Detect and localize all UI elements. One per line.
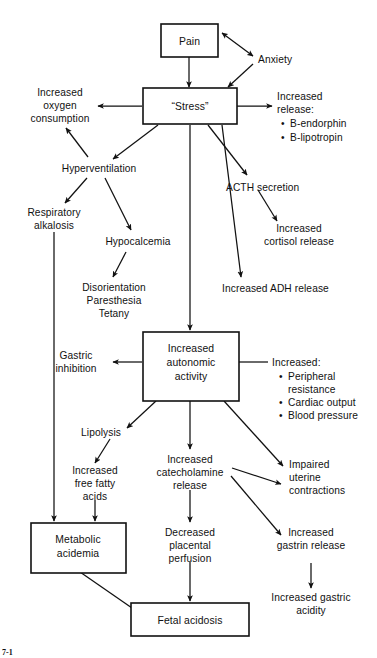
node-label-tetany: Tetany: [99, 308, 130, 319]
node-label-peripheral: Peripheral: [288, 371, 335, 382]
node-label-impaired-uterine-line3: contractions: [289, 485, 345, 496]
node-label-increased-oxygen-line2: oxygen: [43, 100, 76, 111]
node-label-pain: Pain: [179, 36, 200, 47]
node-label-impaired-uterine-line2: uterine: [289, 472, 321, 483]
node-label-increased-oxygen-line3: consumption: [31, 113, 90, 124]
node-label-blood-pressure: Blood pressure: [288, 410, 358, 421]
node-label-respiratory-alkalosis-line2: alkalosis: [34, 220, 74, 231]
node-label-b-lipotropin: B-lipotropin: [290, 132, 343, 143]
bullet-dot-b-lipotropin: •: [281, 132, 285, 143]
node-label-placental-line1: Decreased: [165, 527, 215, 538]
node-label-catecholamine-line2: catecholamine: [157, 467, 224, 478]
node-label-increased-release-title: Increased: [277, 91, 323, 102]
node-label-b-endorphin: B-endorphin: [290, 118, 347, 129]
node-label-ffa-line1: Increased: [72, 465, 118, 476]
node-label-metabolic-line2: acidemia: [57, 548, 100, 559]
bullet-dot-peripheral-resistance: •: [279, 371, 283, 382]
node-label-metabolic-line1: Metabolic: [55, 534, 100, 545]
node-label-gastrin-line2: gastrin release: [277, 540, 346, 551]
bullet-dot-blood-pressure: •: [279, 410, 283, 421]
figure-caption: 7-1: [2, 648, 13, 657]
node-label-respiratory-alkalosis-line1: Respiratory: [27, 207, 81, 218]
node-label-increased-cardio-title: Increased:: [272, 357, 321, 368]
edge-hypocalcemia-to-disorientation: [113, 252, 126, 277]
edge-autonomic-to-lipolysis: [127, 401, 156, 428]
edge-lipolysis-to-ffa: [95, 439, 110, 463]
edge-anxiety-to-stress: [228, 64, 253, 87]
node-label-gastric-inhibition-line2: inhibition: [55, 363, 96, 374]
node-label-fetal-acidosis: Fetal acidosis: [158, 615, 223, 626]
bullet-dot-cardiac-output: •: [279, 397, 283, 408]
node-label-cardiac-output: Cardiac output: [288, 397, 356, 408]
node-label-increased-cortisol-line1: Increased: [276, 223, 322, 234]
edge-stress-to-hyperventilation: [113, 125, 158, 159]
node-label-placental-line2: placental: [169, 540, 211, 551]
node-label-disorientation: Disorientation: [82, 282, 146, 293]
edge-hyperventilation-to-alkalosis: [65, 178, 87, 203]
flowchart-diagram: Pain Anxiety “Stress” Increased oxygen c…: [0, 0, 377, 658]
node-label-ffa-line3: acids: [83, 491, 107, 502]
node-label-increased-cortisol-line2: cortisol release: [264, 236, 334, 247]
node-label-acth-secretion: ACTH secretion: [226, 182, 299, 193]
node-label-anxiety: Anxiety: [258, 54, 293, 65]
node-label-hyperventilation: Hyperventilation: [62, 163, 137, 174]
node-label-gastric-acidity-line2: acidity: [296, 605, 326, 616]
node-label-increased-release-title2: release:: [277, 104, 314, 115]
node-label-lipolysis: Lipolysis: [81, 427, 121, 438]
edge-pain-anxiety-bidirectional: [222, 33, 253, 56]
node-label-resistance: resistance: [288, 384, 336, 395]
node-label-impaired-uterine-line1: Impaired: [289, 459, 330, 470]
edge-hyperventilation-to-oxygen: [66, 128, 88, 157]
edge-stress-to-adh: [222, 125, 241, 277]
node-label-autonomic-line2: autonomic: [167, 357, 216, 368]
edge-metabolic-to-fetal-acidosis: [80, 572, 132, 608]
node-label-hypocalcemia: Hypocalcemia: [105, 236, 170, 247]
node-label-increased-adh: Increased ADH release: [222, 283, 329, 294]
node-label-ffa-line2: free fatty: [75, 478, 116, 489]
edge-catecholamine-to-gastrin: [231, 476, 281, 535]
node-label-catecholamine-line3: release: [173, 480, 207, 491]
node-label-gastric-acidity-line1: Increased gastric: [271, 592, 350, 603]
edge-hyperventilation-to-hypocalcemia: [105, 178, 131, 230]
node-label-paresthesia: Paresthesia: [87, 295, 142, 306]
node-label-gastrin-line1: Increased: [288, 527, 334, 538]
node-label-autonomic-line3: activity: [175, 371, 208, 382]
bullet-dot-b-endorphin: •: [281, 118, 285, 129]
node-label-stress: “Stress”: [171, 101, 209, 112]
node-label-catecholamine-line1: Increased: [167, 454, 213, 465]
edge-autonomic-to-impaired-uterine: [224, 401, 283, 466]
node-label-autonomic-line1: Increased: [168, 343, 215, 354]
edge-catecholamine-to-uterine: [232, 468, 281, 484]
node-label-placental-line3: perfusion: [169, 553, 212, 564]
edge-acth-to-cortisol: [258, 190, 277, 221]
node-label-increased-oxygen-line1: Increased: [37, 87, 83, 98]
figure-canvas: Pain Anxiety “Stress” Increased oxygen c…: [0, 0, 377, 658]
node-label-gastric-inhibition-line1: Gastric: [60, 350, 93, 361]
